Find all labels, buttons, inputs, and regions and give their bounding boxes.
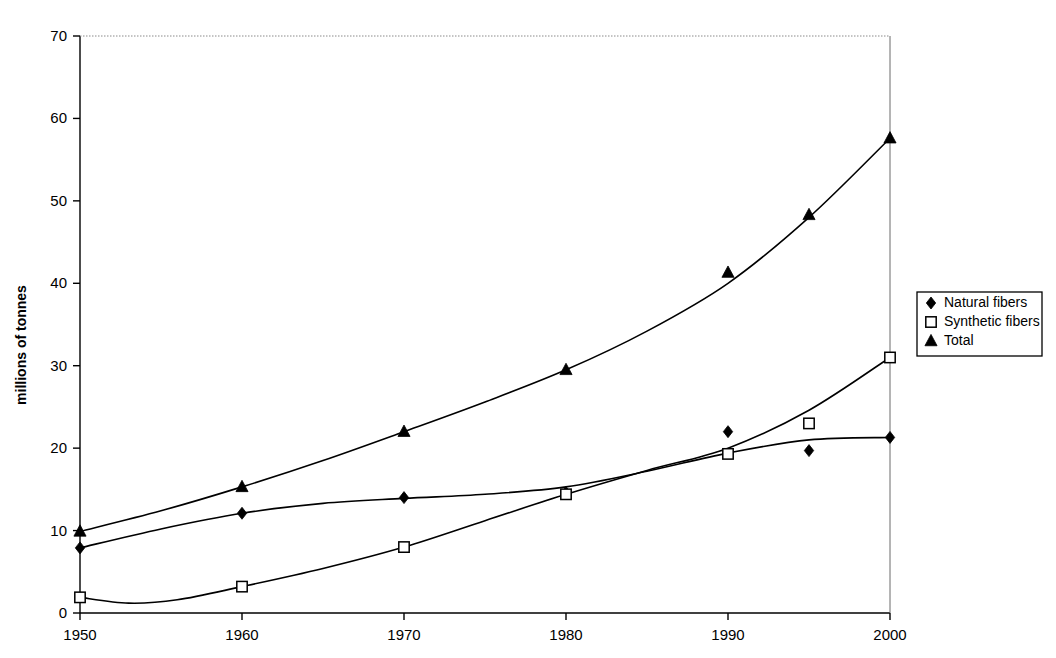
- data-point: [804, 418, 814, 428]
- legend-item-label: Natural fibers: [944, 294, 1027, 310]
- chart-container: 010203040506070 195019601970198019902000…: [0, 0, 1056, 658]
- y-axis-ticks: 010203040506070: [50, 27, 80, 621]
- x-tick-label: 1960: [225, 626, 258, 643]
- y-axis-title: millions of tonnes: [13, 285, 29, 405]
- data-point: [723, 426, 732, 438]
- legend-marker-open-square: [926, 317, 936, 327]
- y-tick-label: 0: [59, 604, 67, 621]
- y-tick-label: 40: [50, 274, 67, 291]
- data-point: [885, 431, 894, 443]
- data-point-markers: [74, 132, 896, 603]
- y-tick-label: 60: [50, 109, 67, 126]
- trend-curves: [80, 138, 890, 603]
- x-tick-label: 1950: [63, 626, 96, 643]
- x-tick-label: 2000: [873, 626, 906, 643]
- legend-item-label: Total: [944, 332, 974, 348]
- y-tick-label: 50: [50, 192, 67, 209]
- data-point: [237, 507, 246, 519]
- data-point: [885, 352, 895, 362]
- data-point: [399, 542, 409, 552]
- y-tick-label: 10: [50, 522, 67, 539]
- y-tick-label: 20: [50, 439, 67, 456]
- data-point: [804, 445, 813, 457]
- series-total: [74, 132, 896, 537]
- y-tick-label: 70: [50, 27, 67, 44]
- trend-curve-natural-fibers: [80, 437, 890, 547]
- legend: Natural fibersSynthetic fibersTotal: [917, 292, 1042, 356]
- data-point: [75, 542, 84, 554]
- x-axis-ticks: 195019601970198019902000: [63, 613, 906, 643]
- data-point: [399, 492, 408, 504]
- fiber-production-line-chart: 010203040506070 195019601970198019902000…: [0, 0, 1056, 658]
- trend-curve-synthetic-fibers: [80, 357, 890, 603]
- x-tick-label: 1980: [549, 626, 582, 643]
- series-synthetic-fibers: [75, 352, 895, 602]
- data-point: [723, 449, 733, 459]
- data-point: [237, 581, 247, 591]
- data-point: [75, 592, 85, 602]
- x-tick-label: 1990: [711, 626, 744, 643]
- data-point: [561, 489, 571, 499]
- trend-curve-total: [80, 138, 890, 531]
- x-tick-label: 1970: [387, 626, 420, 643]
- data-point: [560, 363, 572, 374]
- plot-frame: [80, 36, 890, 613]
- data-point: [884, 132, 896, 143]
- data-point: [722, 266, 734, 277]
- legend-item-label: Synthetic fibers: [944, 313, 1040, 329]
- y-tick-label: 30: [50, 357, 67, 374]
